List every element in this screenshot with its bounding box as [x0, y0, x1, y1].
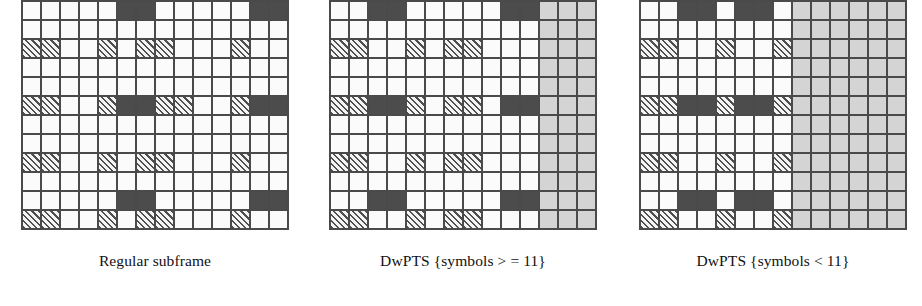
resource-element [270, 211, 287, 228]
resource-element [831, 135, 848, 152]
resource-element [99, 173, 116, 190]
resource-element [888, 59, 905, 76]
resource-element [831, 21, 848, 38]
resource-element [755, 59, 772, 76]
resource-element [213, 154, 230, 171]
resource-element [118, 97, 135, 114]
resource-element [194, 192, 211, 209]
resource-element [559, 173, 576, 190]
resource-element [156, 21, 173, 38]
resource-element [521, 2, 538, 19]
resource-element [42, 192, 59, 209]
resource-element [445, 173, 462, 190]
resource-element [793, 135, 810, 152]
resource-element [660, 192, 677, 209]
resource-element [521, 78, 538, 95]
resource-element [540, 78, 557, 95]
resource-element [61, 2, 78, 19]
resource-element [641, 21, 658, 38]
resource-element [232, 116, 249, 133]
resource-element [369, 2, 386, 19]
resource-element [350, 192, 367, 209]
resource-element [407, 59, 424, 76]
resource-element [232, 2, 249, 19]
caption-regular-subframe: Regular subframe [99, 252, 211, 270]
resource-element [736, 173, 753, 190]
resource-element [388, 116, 405, 133]
resource-element [42, 59, 59, 76]
resource-element [755, 211, 772, 228]
resource-element [755, 116, 772, 133]
resource-element [755, 135, 772, 152]
resource-element [717, 154, 734, 171]
resource-element [502, 59, 519, 76]
resource-element [869, 40, 886, 57]
resource-element [793, 154, 810, 171]
resource-element [407, 135, 424, 152]
resource-element [660, 40, 677, 57]
resource-element [717, 192, 734, 209]
resource-element [698, 154, 715, 171]
resource-element [156, 2, 173, 19]
resource-element [194, 97, 211, 114]
resource-element [156, 78, 173, 95]
resource-element [194, 211, 211, 228]
resource-element [483, 154, 500, 171]
resource-element [426, 173, 443, 190]
resource-element [540, 116, 557, 133]
resource-element [156, 97, 173, 114]
resource-element [502, 97, 519, 114]
resource-element [232, 78, 249, 95]
resource-element [793, 78, 810, 95]
resource-element [42, 2, 59, 19]
grid-dwpts-symbols-lt-11 [639, 0, 907, 230]
resource-element [660, 78, 677, 95]
resource-element [578, 59, 595, 76]
resource-element [464, 40, 481, 57]
resource-element [483, 59, 500, 76]
resource-element [270, 21, 287, 38]
resource-element [175, 40, 192, 57]
resource-element [99, 154, 116, 171]
resource-element [213, 135, 230, 152]
resource-element [118, 2, 135, 19]
resource-element [521, 40, 538, 57]
resource-element [80, 135, 97, 152]
resource-element [350, 2, 367, 19]
resource-element [156, 59, 173, 76]
resource-element [99, 97, 116, 114]
resource-element [61, 211, 78, 228]
resource-element [156, 40, 173, 57]
resource-element [388, 173, 405, 190]
resource-element [407, 192, 424, 209]
resource-element [483, 116, 500, 133]
resource-element [698, 97, 715, 114]
resource-element [793, 192, 810, 209]
resource-element [331, 2, 348, 19]
resource-element [869, 59, 886, 76]
resource-element [251, 211, 268, 228]
resource-element [850, 173, 867, 190]
resource-element [175, 192, 192, 209]
resource-element [118, 116, 135, 133]
resource-element [350, 211, 367, 228]
resource-element [578, 78, 595, 95]
resource-element [755, 78, 772, 95]
resource-element [736, 97, 753, 114]
resource-element [850, 135, 867, 152]
resource-element [175, 154, 192, 171]
resource-element [660, 135, 677, 152]
resource-element [502, 21, 519, 38]
resource-element [23, 192, 40, 209]
resource-element [350, 173, 367, 190]
resource-element [23, 135, 40, 152]
resource-element [42, 154, 59, 171]
resource-element [679, 40, 696, 57]
resource-element [369, 211, 386, 228]
resource-element [698, 40, 715, 57]
resource-element [175, 135, 192, 152]
resource-element [99, 211, 116, 228]
resource-element [464, 192, 481, 209]
resource-element [232, 21, 249, 38]
resource-element [331, 211, 348, 228]
